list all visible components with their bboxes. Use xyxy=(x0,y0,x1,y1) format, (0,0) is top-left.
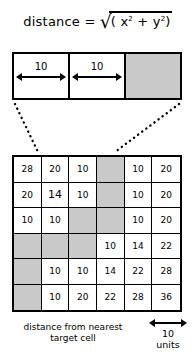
grid-cell: 22 xyxy=(152,234,180,260)
paren-close: ) xyxy=(165,14,170,29)
grid-cell: 10 xyxy=(69,157,97,183)
top-cell-strip: 10 10 xyxy=(12,52,182,100)
grid-cell-target xyxy=(14,234,42,260)
dimension-arrow-2: 10 xyxy=(72,76,122,77)
legend-arrow-bar xyxy=(154,322,182,324)
dimension-arrow-1-bar xyxy=(21,76,61,78)
dimension-arrow-1: 10 xyxy=(16,76,66,77)
legend-double-arrow-icon xyxy=(149,318,187,327)
grid-cell: 10 xyxy=(97,234,125,260)
legend-value: 10 xyxy=(146,328,190,339)
grid-cell: 10 xyxy=(42,285,70,311)
grid-cell-target xyxy=(69,208,97,234)
term-y: y xyxy=(153,14,161,29)
grid-cell: 22 xyxy=(125,259,153,285)
caption-line-1: distance from nearest xyxy=(8,322,138,333)
radical-icon: √ xyxy=(100,12,112,31)
connector-line-right xyxy=(115,104,179,152)
grid-cell: 14 xyxy=(125,234,153,260)
grid-cell: 28 xyxy=(125,285,153,311)
grid-cell: 10 xyxy=(125,157,153,183)
grid-cell: 20 xyxy=(152,183,180,209)
formula-operator: + xyxy=(137,14,148,29)
grid-cell: 20 xyxy=(42,157,70,183)
grid-cell-target xyxy=(42,234,70,260)
top-strip-cell-target xyxy=(126,54,180,98)
grid-cell: 10 xyxy=(42,208,70,234)
arrowhead-left-icon xyxy=(16,73,22,81)
grid-cell: 20 xyxy=(14,183,42,209)
grid-cell-target xyxy=(97,183,125,209)
grid-cell: 10 xyxy=(125,183,153,209)
grid-cell-target xyxy=(14,259,42,285)
grid-cell-target xyxy=(97,208,125,234)
grid-cell: 20 xyxy=(152,208,180,234)
distance-formula: distance = √ ( x2 + y2) xyxy=(0,14,194,29)
arrowhead-right-icon xyxy=(181,319,187,327)
grid-cell: 10 xyxy=(42,259,70,285)
grid-cell: 22 xyxy=(97,285,125,311)
formula-label: distance = xyxy=(23,14,95,29)
connector-line-left xyxy=(15,104,38,152)
distance-grid: 2820101020201410102010101020101422101014… xyxy=(12,155,182,312)
arrowhead-left-icon xyxy=(72,73,78,81)
grid-cell: 28 xyxy=(14,157,42,183)
dimension-arrow-1-label: 10 xyxy=(16,61,66,72)
legend-units: units xyxy=(146,339,190,350)
scale-legend: 10 units xyxy=(146,318,190,350)
grid-cell: 10 xyxy=(125,208,153,234)
grid-cell: 10 xyxy=(69,183,97,209)
dimension-arrow-2-bar xyxy=(77,76,117,78)
grid-cell: 20 xyxy=(152,157,180,183)
grid-cell: 14 xyxy=(42,183,70,209)
grid-cell: 10 xyxy=(69,259,97,285)
arrowhead-left-icon xyxy=(149,319,155,327)
top-strip-cell-left: 10 xyxy=(14,54,70,98)
grid-cell: 14 xyxy=(97,259,125,285)
vinculum-bar xyxy=(109,11,172,13)
caption-line-2: target cell xyxy=(8,333,138,344)
arrowhead-right-icon xyxy=(116,73,122,81)
arrowhead-right-icon xyxy=(60,73,66,81)
grid-cell-target xyxy=(97,157,125,183)
grid-cell: 20 xyxy=(69,285,97,311)
grid-cell: 36 xyxy=(152,285,180,311)
term-x-exponent: 2 xyxy=(128,15,133,23)
grid-caption: distance from nearest target cell xyxy=(8,322,138,344)
dimension-arrow-2-label: 10 xyxy=(72,61,122,72)
grid-cell: 10 xyxy=(14,208,42,234)
top-strip-cell-middle: 10 xyxy=(70,54,126,98)
grid-cell-target xyxy=(14,285,42,311)
grid-cell: 28 xyxy=(152,259,180,285)
square-root-expression: √ ( x2 + y2) xyxy=(100,14,171,29)
grid-cell-target xyxy=(69,234,97,260)
